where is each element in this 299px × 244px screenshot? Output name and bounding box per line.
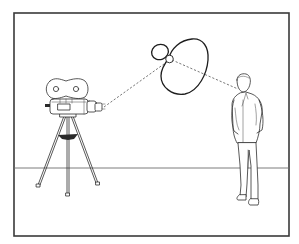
standing-person-icon	[232, 74, 263, 205]
person-shoe	[249, 199, 259, 205]
mic-capsule	[166, 55, 174, 63]
person-jacket	[232, 92, 262, 143]
camera-lens	[95, 103, 102, 111]
microphone-polar-pattern-icon	[149, 39, 208, 94]
front-lobe	[161, 39, 208, 94]
film-camera-icon	[45, 79, 105, 114]
diagram-canvas	[0, 0, 299, 244]
film-magazine	[46, 79, 88, 99]
camera-to-mic-line	[104, 64, 164, 107]
tripod-foot	[37, 184, 41, 187]
dashed-sight-lines	[104, 60, 238, 107]
tripod-icon	[37, 112, 100, 196]
person-shoe	[237, 195, 246, 200]
tripod-foot	[66, 193, 70, 196]
person-head	[237, 74, 250, 92]
tripod-spreader	[58, 134, 78, 140]
illustration	[0, 0, 299, 244]
tripod-foot	[96, 182, 100, 185]
